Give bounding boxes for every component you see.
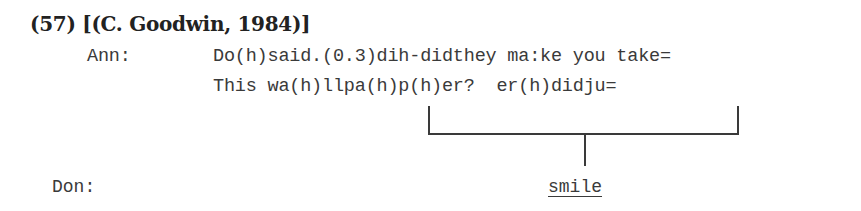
bracket-right-tick [737, 106, 739, 135]
smile-annotation: smile [548, 177, 602, 197]
bracket-stem [584, 135, 586, 166]
transcript-line-2: This wa(h)llpa(h)p(h)er? er(h)didju= [213, 76, 616, 97]
speaker-label-don: Don: [52, 177, 95, 197]
transcript-line-1: Do(h)said.(0.3)dih-didthey ma:ke you tak… [213, 46, 671, 67]
bracket-left-tick [428, 106, 430, 135]
speaker-label-ann: Ann: [87, 46, 131, 67]
example-heading: (57) [(C. Goodwin, 1984)] [30, 12, 310, 36]
